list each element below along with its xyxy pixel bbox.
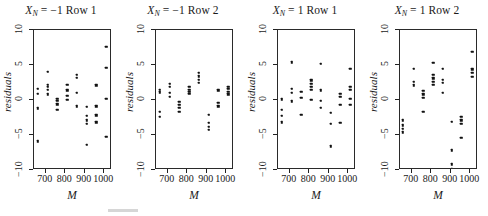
data-point [320,106,322,108]
data-point [402,119,404,121]
x-axis-label: M [33,189,111,201]
x-tick-label: 800 [57,174,72,184]
data-point [56,103,58,105]
y-tick-label: 10 [380,19,394,39]
data-point [95,114,97,116]
y-tick-label-group: 1050−5−10 [258,29,272,169]
x-tick-label: 900 [320,174,335,184]
data-point [320,89,322,91]
y-tick-label: 5 [136,54,150,74]
y-tick-label: −10 [258,159,272,179]
data-point [320,99,322,101]
data-point [300,97,302,99]
x-tick-label-group: 7008009001000 [394,174,484,187]
data-point [37,92,39,94]
data-point [422,111,424,113]
data-point [300,113,302,115]
data-point [460,137,462,139]
data-point [329,111,331,113]
y-tick-label: −10 [380,159,394,179]
data-point [329,145,331,147]
data-point [159,116,161,118]
data-point [227,93,229,95]
x-tick-label-group: 7008009001000 [28,174,118,187]
x-tick-label: 700 [37,174,52,184]
data-point [105,136,107,138]
data-point [281,115,283,117]
y-tick-label: −5 [380,124,394,144]
x-axis-label: M [277,189,355,201]
data-point [442,81,444,83]
data-point [460,119,462,121]
data-point [412,67,414,69]
data-point [329,123,331,125]
data-point [432,62,434,64]
data-point [66,99,68,101]
y-tick-label: 0 [136,89,150,109]
data-point [349,97,351,99]
data-point [402,131,404,133]
y-tick-label: 10 [136,19,150,39]
data-point [76,92,78,94]
data-point [159,91,161,93]
panel-title: XN = 1 Row 2 [366,4,488,18]
data-point [46,93,48,95]
data-point [85,115,87,117]
data-point [188,92,190,94]
x-tick-label: 800 [423,174,438,184]
y-tick-label: 0 [258,89,272,109]
y-tick-label: −10 [14,159,28,179]
data-point [217,105,219,107]
data-point [412,81,414,83]
data-point [290,61,292,63]
data-point [168,92,170,94]
data-point [422,93,424,95]
data-point [46,88,48,90]
plot-area [33,29,111,169]
data-point [105,97,107,99]
y-tick-label: −5 [14,124,28,144]
data-point [460,116,462,118]
data-point [85,144,87,146]
x-tick-label: 700 [281,174,296,184]
data-point [281,109,283,111]
x-tick-label: 1000 [93,174,113,184]
data-point [300,90,302,92]
y-tick-label: −5 [258,124,272,144]
y-tick-label: 0 [14,89,28,109]
x-axis-label: M [155,189,233,201]
data-point [207,125,209,127]
x-tick-label: 900 [76,174,91,184]
y-tick-label: 10 [258,19,272,39]
data-point [450,120,452,122]
x-tick-label: 900 [198,174,213,184]
data-point [207,113,209,115]
x-tick-label: 700 [403,174,418,184]
data-point [95,105,97,107]
data-point [207,122,209,124]
data-point [207,129,209,131]
data-point [310,88,312,90]
data-point [422,97,424,99]
y-tick-label: 10 [14,19,28,39]
data-point [432,77,434,79]
x-tick-label: 800 [179,174,194,184]
data-point [349,67,351,69]
y-tick-label: −5 [136,124,150,144]
data-point [349,88,351,90]
panel-1: XN = −1 Row 1residuals1050−5−10700800900… [0,0,122,216]
data-point [46,71,48,73]
data-point [66,89,68,91]
data-point [198,71,200,73]
data-point [402,127,404,129]
residuals-figure: XN = −1 Row 1residuals1050−5−10700800900… [0,0,488,216]
data-point [310,99,312,101]
data-point [471,76,473,78]
data-point [281,121,283,123]
panel-title-var: X [273,4,280,16]
panel-title-rest: = −1 Row 2 [160,4,219,16]
data-point [310,79,312,81]
x-tick-label: 700 [159,174,174,184]
x-tick-label: 1000 [337,174,357,184]
data-point [412,84,414,86]
